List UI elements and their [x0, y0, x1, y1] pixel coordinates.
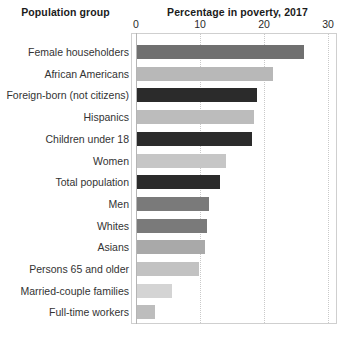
bar-row: Children under 18 [0, 128, 344, 150]
bar-row: Foreign-born (not citizens) [0, 84, 344, 106]
bar-row: Men [0, 193, 344, 215]
bar [137, 284, 172, 298]
category-label: Children under 18 [46, 128, 129, 150]
bar [137, 110, 254, 124]
x-tick-0: 0 [133, 18, 139, 30]
category-label: Women [93, 150, 129, 172]
bar [137, 45, 304, 59]
bar-row: Married-couple families [0, 280, 344, 302]
x-tick-30: 30 [322, 18, 334, 30]
bar [137, 197, 209, 211]
bar [137, 240, 205, 254]
category-label: Foreign-born (not citizens) [6, 84, 129, 106]
bar [137, 175, 220, 189]
bar [137, 219, 207, 233]
category-label: Female householders [28, 41, 129, 63]
bar-row: Hispanics [0, 106, 344, 128]
bar-row: Persons 65 and older [0, 258, 344, 280]
bar [137, 154, 226, 168]
bar-row: Whites [0, 215, 344, 237]
category-label: Men [109, 193, 129, 215]
category-label: Total population [55, 171, 129, 193]
category-label: African Americans [44, 63, 129, 85]
poverty-bar-chart-figure: Population group Percentage in poverty, … [0, 0, 344, 337]
bar [137, 132, 252, 146]
column-header-population-group: Population group [0, 6, 131, 18]
bar [137, 67, 273, 81]
x-tick-20: 20 [258, 18, 270, 30]
bar-row: African Americans [0, 63, 344, 85]
chart-title: Percentage in poverty, 2017 [131, 6, 344, 18]
bar-row: Asians [0, 236, 344, 258]
category-label: Full-time workers [49, 301, 129, 323]
bar-row: Women [0, 150, 344, 172]
category-label: Persons 65 and older [29, 258, 129, 280]
category-label: Whites [97, 215, 129, 237]
bar-row: Full-time workers [0, 301, 344, 323]
category-label: Hispanics [83, 106, 129, 128]
bar-row: Total population [0, 171, 344, 193]
x-tick-10: 10 [194, 18, 206, 30]
bar [137, 88, 257, 102]
bar [137, 262, 199, 276]
bar-row: Female householders [0, 41, 344, 63]
category-label: Asians [97, 236, 129, 258]
category-label: Married-couple families [20, 280, 129, 302]
bar [137, 305, 155, 319]
